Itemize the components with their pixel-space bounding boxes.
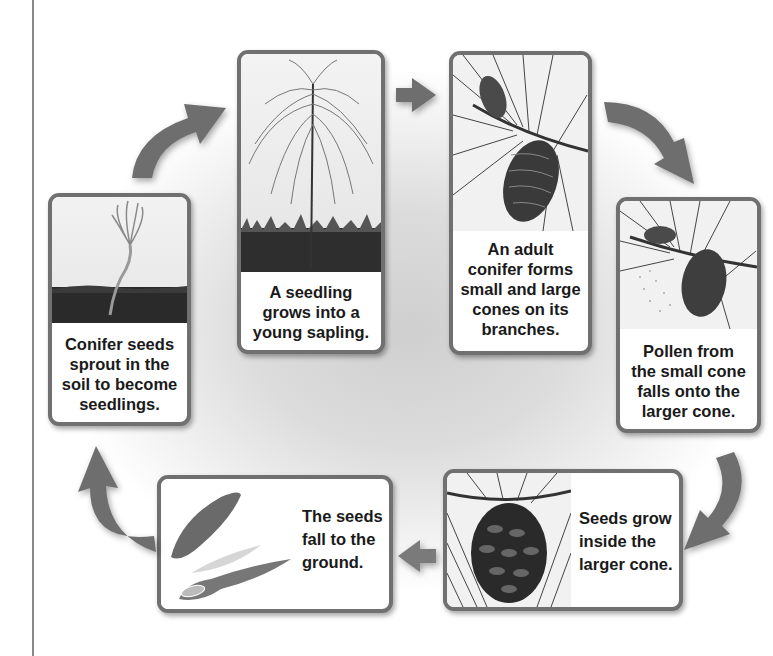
caption-line: ground. [302, 551, 383, 574]
arrow-seeds-grow-to-seeds-fall-icon [398, 540, 436, 572]
caption-line: An adult [453, 239, 588, 259]
caption-line: young sapling. [241, 322, 381, 342]
caption-line: The seeds [302, 505, 383, 528]
curved-arrow-adult-to-pollen-icon [604, 98, 698, 186]
caption-line: sprout in the [52, 354, 187, 374]
curved-arrow-seeds-fall-to-sprout-icon [78, 446, 160, 554]
stage-card-adult: An adult conifer forms small and large c… [449, 51, 592, 355]
stage-card-seeds-grow: Seeds grow inside the larger cone. [443, 469, 683, 611]
caption-line: falls onto the [620, 381, 757, 401]
stage-card-sprout: Conifer seeds sprout in the soil to beco… [48, 193, 191, 426]
caption-line: the small cone [620, 361, 757, 381]
stage-card-seeds-fall: The seeds fall to the ground. [157, 475, 393, 613]
caption-line: inside the [579, 530, 673, 553]
large-pine-cone-illustration [447, 473, 571, 607]
caption-line: grows into a [241, 302, 381, 322]
arrow-sapling-to-adult-icon [396, 78, 438, 112]
caption-line: larger cone. [579, 553, 673, 576]
curved-arrow-pollen-to-seeds-grow-icon [682, 450, 754, 554]
caption-line: Seeds grow [579, 507, 673, 530]
caption-line: cones on its [453, 299, 588, 319]
caption-line: Conifer seeds [52, 334, 187, 354]
caption-line: fall to the [302, 528, 383, 551]
caption-line: conifer forms [453, 259, 588, 279]
caption-line: branches. [453, 319, 588, 339]
caption-line: A seedling [241, 282, 381, 302]
caption-line: small and large [453, 279, 588, 299]
page-margin-rule [32, 0, 34, 656]
caption-line: Pollen from [620, 341, 757, 361]
caption-line: seedlings. [52, 394, 187, 414]
curved-arrow-sprout-to-sapling-icon [128, 96, 232, 182]
caption-line: larger cone. [620, 401, 757, 421]
pollen-falling-illustration [620, 201, 757, 329]
stage-card-pollen: Pollen from the small cone falls onto th… [616, 197, 761, 433]
seedling-sprout-illustration [52, 197, 187, 323]
young-sapling-illustration [241, 54, 381, 272]
pine-branch-cones-illustration [453, 55, 588, 231]
stage-card-sapling: A seedling grows into a young sapling. [237, 50, 385, 354]
winged-seeds-illustration [161, 479, 301, 609]
caption-line: soil to become [52, 374, 187, 394]
